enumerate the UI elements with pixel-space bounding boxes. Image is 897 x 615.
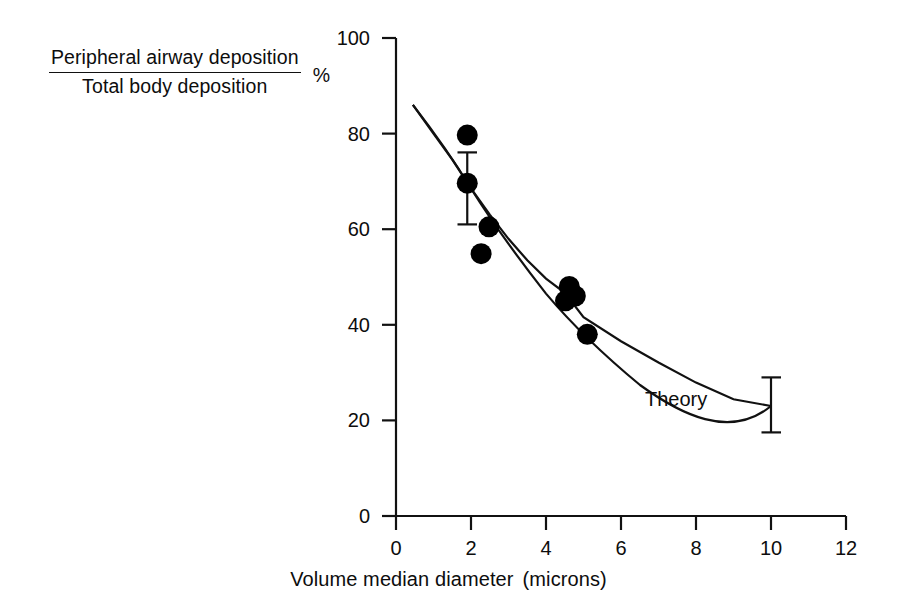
axis-lines	[396, 38, 846, 516]
x-tick-label-6: 6	[601, 537, 641, 560]
y-tick-label-20: 20	[326, 409, 370, 432]
scatter-markers	[457, 125, 598, 345]
data-point	[457, 125, 478, 146]
y-tick-label-80: 80	[326, 122, 370, 145]
y-tick-label-100: 100	[326, 27, 370, 50]
chart-figure: Peripheral airway deposition Total body …	[0, 0, 897, 615]
y-tick-label-60: 60	[326, 218, 370, 241]
data-point	[565, 286, 586, 307]
data-point	[479, 216, 500, 237]
y-axis-ticks	[382, 38, 396, 516]
data-point	[471, 243, 492, 264]
theory-annotation-label: Theory	[645, 388, 707, 411]
x-tick-label-4: 4	[526, 537, 566, 560]
x-axis-label: Volume median diameter(microns)	[0, 568, 897, 591]
x-axis-ticks	[396, 516, 846, 530]
data-point	[457, 173, 478, 194]
x-tick-label-0: 0	[376, 537, 416, 560]
x-axis-label-units: (microns)	[523, 568, 607, 590]
y-tick-label-40: 40	[326, 313, 370, 336]
plot-canvas	[0, 0, 897, 615]
x-tick-label-10: 10	[751, 537, 791, 560]
data-point	[577, 324, 598, 345]
x-tick-label-8: 8	[676, 537, 716, 560]
theory-curve-points	[413, 105, 771, 406]
y-tick-label-0: 0	[326, 505, 370, 528]
x-tick-label-2: 2	[451, 537, 491, 560]
x-axis-label-main: Volume median diameter	[290, 568, 513, 590]
x-tick-label-12: 12	[826, 537, 866, 560]
